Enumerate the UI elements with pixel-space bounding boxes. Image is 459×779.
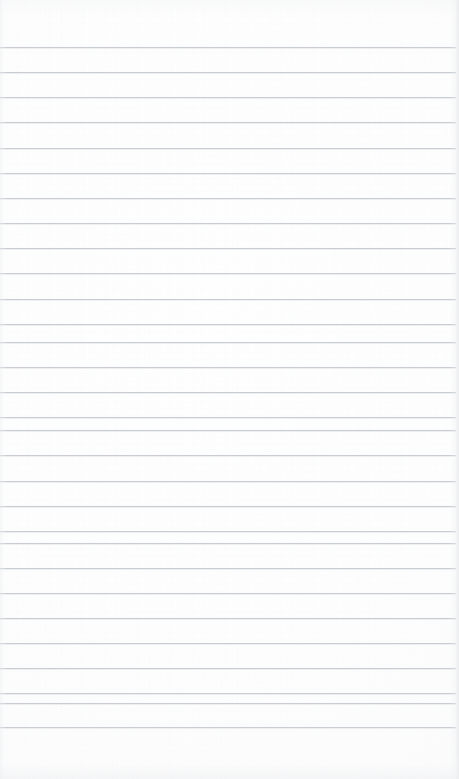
- scanned-notebook-page: [0, 0, 459, 779]
- paper-background: [0, 0, 459, 779]
